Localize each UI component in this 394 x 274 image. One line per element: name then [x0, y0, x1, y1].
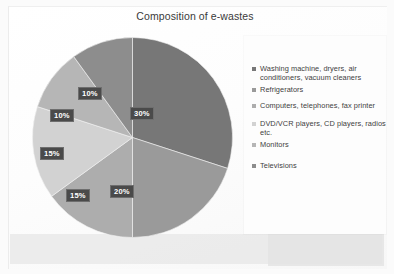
legend-item[interactable]: DVD/VCR players, CD players, radios etc. [252, 119, 388, 138]
legend-item-label: Refrigerators [260, 85, 303, 94]
legend-swatch-icon [252, 67, 256, 71]
pie-chart-svg [32, 37, 233, 238]
legend-item-label: Monitors [260, 140, 289, 149]
scan-shadow-band-right [268, 232, 384, 266]
legend-swatch-icon [252, 88, 256, 92]
page-title: Composition of e-wastes [60, 10, 330, 22]
legend-item-label: Computers, telephones, fax printer [260, 101, 375, 110]
legend-item[interactable]: Refrigerators [252, 85, 388, 94]
pie-chart: 30% 20% 15% 15% 10% 10% [32, 37, 233, 238]
legend-item[interactable]: Computers, telephones, fax printer [252, 101, 388, 110]
legend-item-label: Washing machine, dryers, air conditioner… [260, 64, 388, 83]
legend-swatch-icon [252, 104, 256, 108]
pie-data-label-0: 30% [130, 107, 154, 120]
slide-page: Composition of e-wastes 30% 20% 15% 15% … [0, 0, 394, 274]
legend-item-label: DVD/VCR players, CD players, radios etc. [260, 119, 388, 138]
legend-item[interactable]: Monitors [252, 140, 388, 149]
pie-data-label-3: 15% [40, 147, 64, 160]
legend-swatch-icon [252, 122, 256, 126]
legend-item[interactable]: Washing machine, dryers, air conditioner… [252, 64, 388, 83]
legend-item-label: Televisions [260, 161, 297, 170]
pie-slices [33, 38, 233, 238]
chart-legend: Washing machine, dryers, air conditioner… [252, 64, 388, 172]
pie-data-label-2: 15% [66, 189, 90, 202]
pie-data-label-1: 20% [110, 185, 134, 198]
legend-item[interactable]: Televisions [252, 161, 388, 170]
legend-swatch-icon [252, 164, 256, 168]
pie-data-label-5: 10% [78, 87, 102, 100]
legend-swatch-icon [252, 143, 256, 147]
pie-data-label-4: 10% [50, 109, 74, 122]
